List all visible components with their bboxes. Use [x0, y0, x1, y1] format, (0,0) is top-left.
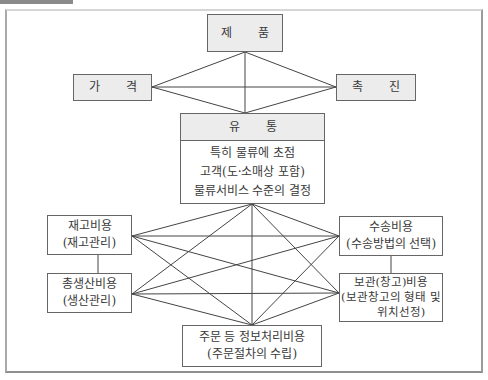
- promotion-label-char1: 촉: [352, 79, 363, 96]
- inventory-cost-subtitle: (재고관리): [63, 235, 116, 252]
- order-cost-title: 주문 등 정보처리비용: [199, 329, 306, 346]
- distribution-line-1: 특히 물류에 초점: [210, 144, 295, 163]
- distribution-header: 유 통: [180, 113, 325, 141]
- promotion-box: 촉 진: [336, 74, 416, 101]
- distribution-line-3: 물류서비스 수준의 결정: [194, 182, 312, 201]
- product-label-char2: 품: [258, 25, 269, 42]
- storage-cost-subtitle-2: 위치선정): [357, 305, 426, 320]
- transport-cost-subtitle: (수송방법의 선택): [346, 236, 436, 253]
- price-box: 가 격: [73, 74, 152, 101]
- promotion-label-char2: 진: [389, 79, 400, 96]
- inventory-cost-box: 재고비용 (재고관리): [47, 215, 132, 255]
- product-box: 제 품: [207, 14, 283, 52]
- storage-cost-box: 보관(창고)비용 (보관창고의 형태 및 위치선정): [339, 273, 443, 322]
- inventory-cost-title: 재고비용: [68, 218, 112, 235]
- distribution-line-2: 고객(도·소매상 포함): [200, 163, 305, 182]
- price-label-char1: 가: [89, 79, 100, 96]
- order-cost-subtitle: (주문절차의 수립): [207, 346, 297, 363]
- distribution-label-char2: 통: [266, 119, 277, 136]
- storage-cost-title: 보관(창고)비용: [354, 275, 429, 290]
- production-cost-box: 총생산비용 (생산관리): [47, 273, 132, 313]
- transport-cost-title: 수송비용: [369, 219, 413, 236]
- order-cost-box: 주문 등 정보처리비용 (주문절차의 수립): [182, 325, 322, 367]
- distribution-label-char1: 유: [229, 119, 240, 136]
- transport-cost-box: 수송비용 (수송방법의 선택): [339, 216, 443, 256]
- storage-cost-subtitle: (보관창고의 형태 및: [341, 290, 441, 305]
- production-cost-title: 총생산비용: [62, 276, 117, 293]
- product-label-char1: 제: [221, 25, 232, 42]
- distribution-body: 특히 물류에 초점 고객(도·소매상 포함) 물류서비스 수준의 결정: [180, 140, 325, 204]
- production-cost-subtitle: (생산관리): [63, 293, 116, 310]
- price-label-char2: 격: [126, 79, 137, 96]
